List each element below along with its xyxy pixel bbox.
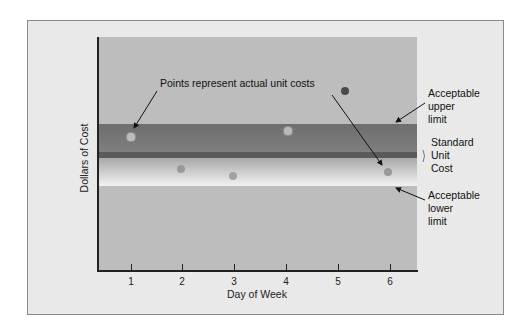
arrow-to-upper-limit (396, 103, 425, 122)
arrow-to-point-6 (332, 95, 382, 165)
arrows-overlay (0, 0, 532, 336)
arrow-to-point-1 (134, 91, 157, 128)
arrow-to-lower-limit (396, 188, 425, 200)
standard-bracket-icon (423, 150, 425, 162)
